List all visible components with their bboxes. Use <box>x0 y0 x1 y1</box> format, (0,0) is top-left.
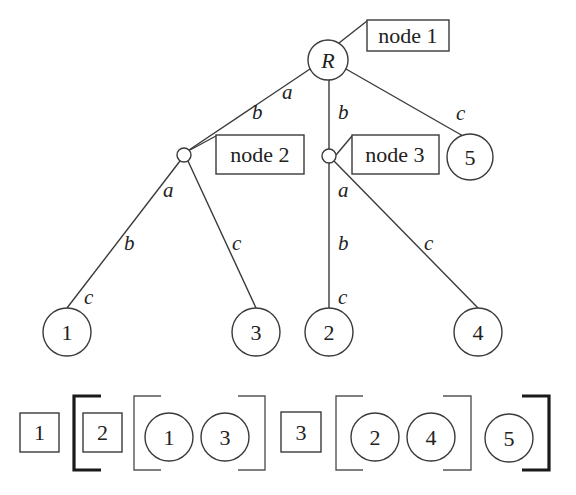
serial-circle-3-label: 3 <box>220 425 231 450</box>
node3-circle <box>322 149 336 163</box>
node3-callout: node 3 <box>352 135 439 174</box>
edge-node2-leaf3 <box>188 161 256 308</box>
leaf3-label: 3 <box>251 320 262 345</box>
edge-label-a: a <box>338 178 349 202</box>
edge-label-c: c <box>424 231 434 255</box>
edge-label-b: b <box>252 100 263 124</box>
serialization-row: 1 2 1 3 3 2 4 5 <box>20 396 549 470</box>
tree-diagram: R node 1 node 2 node 3 5 1 3 2 4 <box>0 0 576 495</box>
root-label: R <box>320 48 335 73</box>
serial-circle-4-label: 4 <box>426 425 437 450</box>
serial-box-3-label: 3 <box>296 420 307 445</box>
leaf1-label: 1 <box>62 320 73 345</box>
leaf2-label: 2 <box>324 320 335 345</box>
serial-circle-1-label: 1 <box>164 425 175 450</box>
node3 <box>322 149 336 163</box>
node1-callout-label: node 1 <box>378 23 437 48</box>
leaf5-label: 5 <box>465 145 476 170</box>
edge-label-a: a <box>163 178 174 202</box>
serial-circle-5-label: 5 <box>504 426 515 451</box>
edge-node3-leaf4 <box>334 161 478 308</box>
leaf-2: 2 <box>305 308 353 356</box>
serial-box-2-label: 2 <box>97 420 108 445</box>
leaf-5: 5 <box>447 134 493 180</box>
callout-node3-connector <box>336 136 352 155</box>
edge-root-leaf5 <box>346 69 463 136</box>
node2-callout-label: node 2 <box>230 142 289 167</box>
leaf4-label: 4 <box>473 320 484 345</box>
callout-node2-connector <box>190 136 216 150</box>
edge-label-c: c <box>232 231 242 255</box>
root-node: R <box>308 40 348 80</box>
edge-label-b: b <box>338 100 349 124</box>
node3-callout-label: node 3 <box>365 142 424 167</box>
leaf-4: 4 <box>454 308 502 356</box>
leaf-3: 3 <box>232 308 280 356</box>
node1-callout: node 1 <box>367 20 449 51</box>
edge-labels: a b b c a b c c a b c c <box>84 80 466 309</box>
serial-box-1-label: 1 <box>34 420 45 445</box>
edge-label-b: b <box>338 231 349 255</box>
node2-circle <box>177 148 191 162</box>
callout-node1-connector <box>339 21 367 43</box>
leaf-1: 1 <box>43 308 91 356</box>
edge-label-a: a <box>282 80 293 104</box>
edge-label-b: b <box>124 231 135 255</box>
edge-label-c: c <box>456 101 466 125</box>
node2 <box>177 148 191 162</box>
edge-label-c: c <box>338 285 348 309</box>
node2-callout: node 2 <box>216 135 304 174</box>
edge-label-c: c <box>84 285 94 309</box>
serial-circle-2-label: 2 <box>370 425 381 450</box>
